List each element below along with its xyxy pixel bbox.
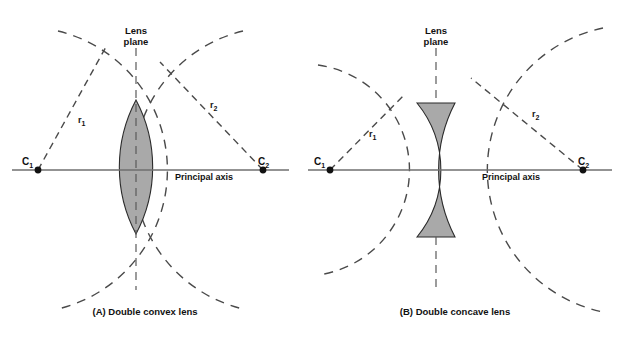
radius-line-r1-a xyxy=(38,45,107,170)
principal-axis-label-a: Principal axis xyxy=(175,172,233,182)
center-label-c1-b-subscript: 1 xyxy=(321,162,325,169)
center-point-c1-b xyxy=(327,167,334,174)
lens-diagram-svg: Lens plane C1 C2 r1 r2 Principal axis (A… xyxy=(0,0,632,340)
lens-plane-label-b-line2: plane xyxy=(424,36,449,47)
center-label-c1-a-subscript: 1 xyxy=(29,162,33,169)
radius-label-r2-a: r2 xyxy=(210,100,218,112)
panel-a-caption: (A) Double convex lens xyxy=(92,306,197,317)
radius-label-r2-a-subscript: 2 xyxy=(214,105,218,112)
principal-axis-label-b: Principal axis xyxy=(482,172,540,182)
radius-label-r1-a-subscript: 1 xyxy=(82,120,86,127)
radius-label-r1-b-subscript: 1 xyxy=(373,134,377,141)
center-label-c2-b-symbol: C xyxy=(578,156,585,167)
lens-plane-label-a-line1: Lens xyxy=(125,25,147,36)
lens-plane-label-a-line2: plane xyxy=(124,36,149,47)
lens-diagram-figure: Lens plane C1 C2 r1 r2 Principal axis (A… xyxy=(0,0,632,340)
radius-line-r1-b xyxy=(330,95,404,170)
center-label-c1-a: C1 xyxy=(22,156,33,169)
radius-label-r2-b: r2 xyxy=(532,109,540,121)
radius-label-r1-a: r1 xyxy=(78,115,86,127)
center-point-c1-a xyxy=(35,167,42,174)
center-label-c1-b-symbol: C xyxy=(314,156,321,167)
radius-label-r1-b: r1 xyxy=(369,129,377,141)
center-label-c2-a-symbol: C xyxy=(258,156,265,167)
panel-b: Lens plane C1 C2 r1 r2 Principal axis (B… xyxy=(308,25,612,317)
center-label-c1-a-symbol: C xyxy=(22,156,29,167)
radius-label-r2-b-subscript: 2 xyxy=(536,114,540,121)
radius-line-r2-a xyxy=(160,62,263,170)
panel-b-caption: (B) Double concave lens xyxy=(400,306,510,317)
center-label-c2-b-subscript: 2 xyxy=(585,162,589,169)
center-label-c1-b: C1 xyxy=(314,156,325,169)
center-label-c2-a-subscript: 2 xyxy=(265,162,269,169)
panel-a: Lens plane C1 C2 r1 r2 Principal axis (A… xyxy=(12,25,289,317)
lens-plane-label-b-line1: Lens xyxy=(425,25,447,36)
